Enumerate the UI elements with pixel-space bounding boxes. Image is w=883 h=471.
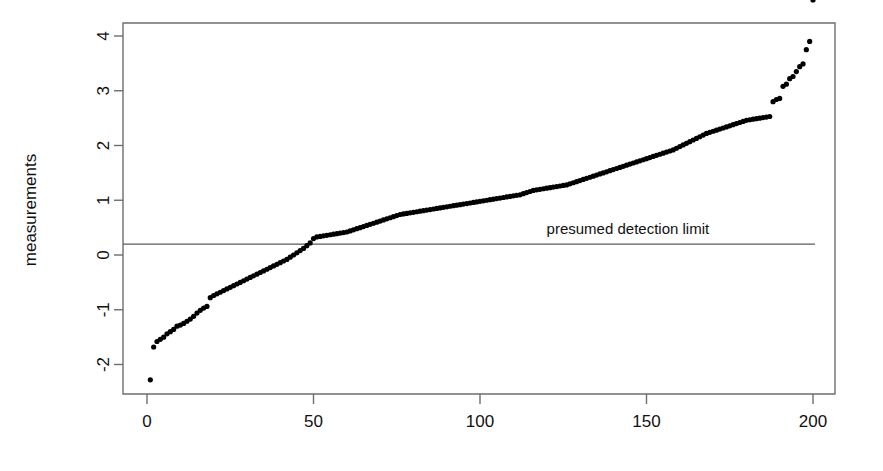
y-axis-tick-label: -2: [94, 357, 113, 372]
y-axis-tick-label: 3: [94, 86, 113, 95]
data-point: [204, 304, 209, 309]
y-axis-tick-label: -1: [94, 302, 113, 317]
data-point-group: [148, 0, 816, 382]
scatter-plot-canvas: -2-101234050100150200measurementspresume…: [0, 0, 883, 471]
data-point: [777, 96, 782, 101]
data-point: [148, 377, 153, 382]
y-axis-tick-label: 2: [94, 141, 113, 150]
data-point: [767, 114, 772, 119]
x-axis-tick-label: 200: [799, 412, 827, 431]
data-point: [794, 69, 799, 74]
y-axis-title: measurements: [21, 154, 40, 266]
data-point: [784, 82, 789, 87]
data-point: [804, 47, 809, 52]
x-axis-tick-label: 0: [142, 412, 151, 431]
data-point: [810, 0, 815, 3]
x-axis-tick-label: 50: [304, 412, 323, 431]
x-axis-tick-label: 150: [632, 412, 660, 431]
y-axis-tick-label: 1: [94, 196, 113, 205]
data-point: [800, 61, 805, 66]
chart-figure: -2-101234050100150200measurementspresume…: [0, 0, 883, 471]
x-axis-tick-label: 100: [466, 412, 494, 431]
data-point: [308, 240, 313, 245]
data-point: [151, 344, 156, 349]
y-axis-tick-label: 4: [94, 31, 113, 40]
y-axis-tick-label: 0: [94, 250, 113, 259]
data-point: [807, 39, 812, 44]
detection-limit-label: presumed detection limit: [547, 220, 710, 237]
data-point: [790, 74, 795, 79]
plot-box: [123, 23, 835, 394]
